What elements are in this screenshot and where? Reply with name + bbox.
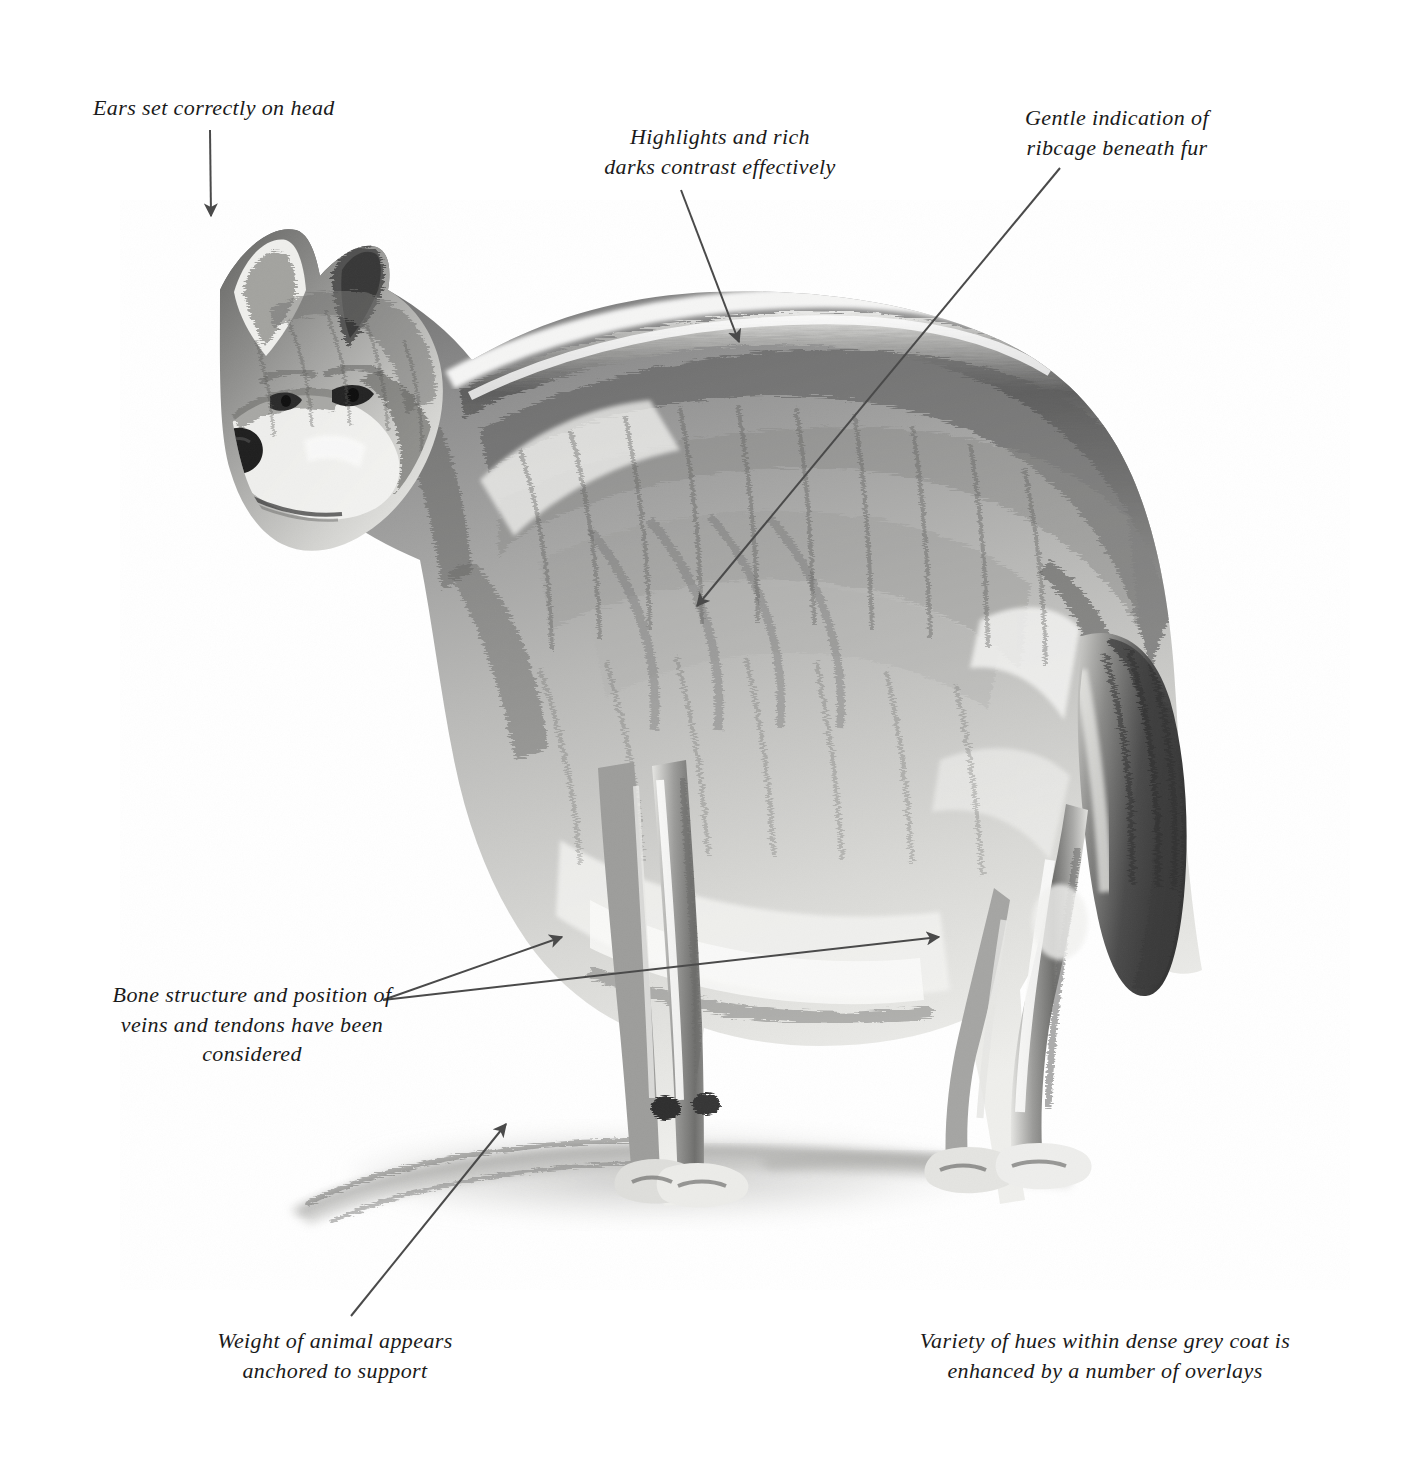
wolf-nose — [217, 428, 263, 475]
arrow-highlights — [681, 190, 739, 342]
arrow-weight — [351, 1124, 506, 1316]
wolf-tail — [1078, 630, 1187, 996]
wolf-head — [217, 229, 443, 551]
annotation-arrows — [0, 0, 1405, 1483]
wolf-eyes — [260, 367, 382, 411]
wolf-front-legs — [598, 760, 749, 1208]
page-canvas: Ears set correctly on head Highlights an… — [0, 0, 1405, 1483]
wolf-drawing — [120, 200, 1350, 1290]
ground-shadow — [290, 1129, 1070, 1224]
annotation-bone-structure: Bone structure and position of veins and… — [62, 980, 442, 1069]
annotation-hues: Variety of hues within dense grey coat i… — [890, 1326, 1320, 1385]
arrow-bone-hind — [383, 937, 939, 1000]
arrow-ribcage — [697, 168, 1060, 606]
wolf-hind-legs — [924, 804, 1091, 1193]
annotation-weight: Weight of animal appears anchored to sup… — [175, 1326, 495, 1385]
annotation-highlights: Highlights and rich darks contrast effec… — [560, 122, 880, 181]
arrow-ears — [210, 130, 211, 216]
annotation-ears: Ears set correctly on head — [93, 93, 413, 123]
annotation-ribcage: Gentle indication of ribcage beneath fur — [972, 103, 1262, 162]
